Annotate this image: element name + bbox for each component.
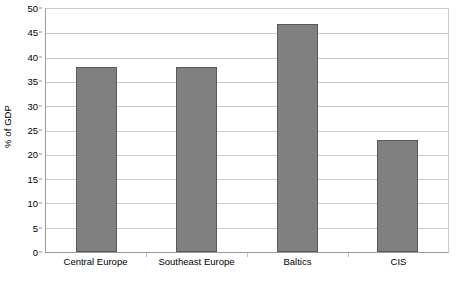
y-tick-label: 40 bbox=[27, 51, 38, 62]
y-tick-label: 10 bbox=[27, 198, 38, 209]
y-tick-mark bbox=[39, 178, 42, 179]
y-tick-mark bbox=[39, 81, 42, 82]
y-tick-label: 50 bbox=[27, 3, 38, 14]
x-tick-label: Central Europe bbox=[45, 256, 146, 276]
y-tick-label: 20 bbox=[27, 149, 38, 160]
y-axis-title: % of GDP bbox=[0, 0, 16, 253]
y-tick-mark bbox=[39, 203, 42, 204]
y-tick-label: 0 bbox=[33, 247, 38, 258]
y-tick-mark bbox=[39, 56, 42, 57]
y-tick-label: 30 bbox=[27, 100, 38, 111]
x-tick-label: Baltics bbox=[247, 256, 348, 276]
bars-layer bbox=[46, 9, 448, 252]
y-tick-label: 25 bbox=[27, 125, 38, 136]
bar bbox=[76, 67, 117, 252]
bar bbox=[377, 140, 418, 252]
y-axis-title-label: % of GDP bbox=[3, 105, 14, 148]
bar-slot bbox=[147, 9, 248, 252]
y-tick-mark bbox=[39, 252, 42, 253]
bar-slot bbox=[46, 9, 147, 252]
y-tick-mark bbox=[39, 130, 42, 131]
y-tick-mark bbox=[39, 227, 42, 228]
x-axis-tick-labels: Central EuropeSoutheast EuropeBalticsCIS bbox=[45, 256, 449, 276]
bar-chart: % of GDP 05101520253035404550 Central Eu… bbox=[0, 0, 456, 283]
bar-slot bbox=[247, 9, 348, 252]
x-tick-label: CIS bbox=[348, 256, 449, 276]
y-tick-label: 15 bbox=[27, 173, 38, 184]
y-tick-label: 45 bbox=[27, 27, 38, 38]
y-tick-mark bbox=[39, 105, 42, 106]
y-tick-mark bbox=[39, 8, 42, 9]
bar bbox=[176, 67, 217, 252]
y-axis-tick-labels: 05101520253035404550 bbox=[16, 8, 42, 253]
bar-slot bbox=[348, 9, 449, 252]
y-tick-label: 35 bbox=[27, 76, 38, 87]
y-tick-label: 5 bbox=[33, 222, 38, 233]
bar bbox=[277, 24, 318, 252]
x-tick-label: Southeast Europe bbox=[146, 256, 247, 276]
y-tick-mark bbox=[39, 32, 42, 33]
y-tick-mark bbox=[39, 154, 42, 155]
plot-area bbox=[45, 8, 449, 253]
